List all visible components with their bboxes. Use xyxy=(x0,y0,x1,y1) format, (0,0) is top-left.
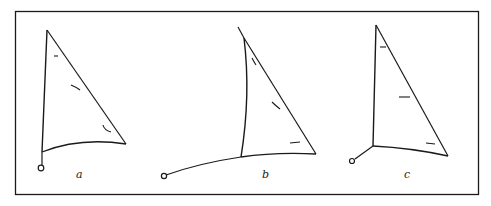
sail-a-foot xyxy=(42,142,126,152)
sail-c: c xyxy=(350,25,449,181)
telltale-icon xyxy=(426,143,435,144)
sail-diagram: a b c xyxy=(0,0,491,206)
sail-b-luff xyxy=(241,38,247,157)
sail-c-foot xyxy=(373,146,448,156)
sail-b-leech xyxy=(244,38,316,154)
panel-label-b: b xyxy=(262,168,269,181)
sail-c-luff xyxy=(373,25,376,146)
telltale-icon xyxy=(272,102,280,109)
sail-a-tack-ring xyxy=(38,165,44,171)
sail-b-tack-pennant xyxy=(166,157,241,175)
telltale-icon xyxy=(252,58,256,65)
panel-label-a: a xyxy=(76,168,83,181)
sail-a-luff xyxy=(42,30,47,152)
sail-c-tack-line xyxy=(355,146,373,159)
telltale-icon xyxy=(290,142,300,143)
sail-a-leech xyxy=(47,30,126,144)
telltale-icon xyxy=(71,85,80,90)
sail-b: b xyxy=(161,27,316,181)
sail-c-tack-ring xyxy=(350,159,355,164)
telltale-icon xyxy=(103,125,111,132)
sail-b-tack-ring xyxy=(161,173,166,178)
sail-c-leech xyxy=(376,25,448,156)
panel-label-c: c xyxy=(404,168,410,181)
sail-b-foot xyxy=(241,153,316,157)
sail-b-head xyxy=(238,27,244,38)
sail-a: a xyxy=(38,30,126,181)
